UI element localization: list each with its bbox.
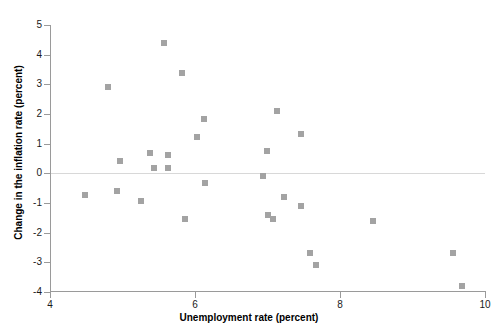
data-point <box>370 218 376 224</box>
data-point <box>270 216 276 222</box>
data-point <box>82 192 88 198</box>
data-point <box>117 158 123 164</box>
data-point <box>179 70 185 76</box>
y-axis-tick <box>44 114 51 115</box>
data-point <box>260 173 266 179</box>
x-axis-line <box>50 291 485 292</box>
data-point <box>105 84 111 90</box>
y-axis-tick <box>44 262 51 263</box>
data-point <box>194 134 200 140</box>
data-point <box>147 150 153 156</box>
y-axis-tick <box>44 233 51 234</box>
x-axis-tick-label: 4 <box>37 300 63 310</box>
y-axis-title: Change in the inflation rate (percent) <box>13 38 24 268</box>
y-axis-line <box>50 25 51 292</box>
x-axis-title: Unemployment rate (percent) <box>0 312 498 323</box>
y-axis-tick <box>44 25 51 26</box>
data-point <box>264 148 270 154</box>
x-axis-tick <box>485 291 486 298</box>
data-point <box>274 108 280 114</box>
data-point <box>459 283 465 289</box>
zero-reference-line <box>50 173 485 174</box>
data-point <box>201 116 207 122</box>
x-axis-tick-label: 8 <box>327 300 353 310</box>
data-point <box>165 152 171 158</box>
data-point <box>202 180 208 186</box>
data-point <box>165 165 171 171</box>
data-point <box>313 262 319 268</box>
y-axis-tick-label: -4 <box>16 287 42 297</box>
y-axis-tick <box>44 55 51 56</box>
data-point <box>298 131 304 137</box>
y-axis-tick <box>44 84 51 85</box>
x-axis-tick-label: 10 <box>472 300 498 310</box>
x-axis-tick <box>340 291 341 298</box>
data-point <box>161 40 167 46</box>
scatter-plot-figure: 543210-1-2-3-4 46810 Unemployment rate (… <box>0 0 498 330</box>
data-point <box>281 194 287 200</box>
y-axis-tick <box>44 173 51 174</box>
data-point <box>151 165 157 171</box>
x-axis-tick <box>50 291 51 298</box>
plot-area <box>50 25 485 292</box>
data-point <box>182 216 188 222</box>
x-axis-tick-label: 6 <box>182 300 208 310</box>
y-axis-tick <box>44 144 51 145</box>
data-point <box>138 198 144 204</box>
data-point <box>114 188 120 194</box>
data-point <box>298 203 304 209</box>
data-point <box>307 250 313 256</box>
y-axis-tick <box>44 203 51 204</box>
data-point <box>450 250 456 256</box>
x-axis-tick <box>195 291 196 298</box>
y-axis-tick-label: 5 <box>16 20 42 30</box>
